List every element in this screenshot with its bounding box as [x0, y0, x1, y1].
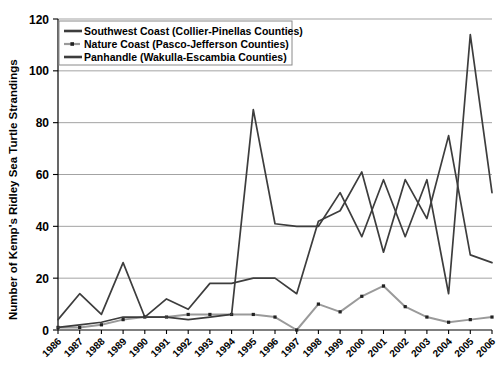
- y-tick-label: 0: [42, 324, 49, 338]
- y-tick-label: 60: [36, 168, 50, 182]
- series-marker: [339, 310, 342, 313]
- series-marker: [122, 318, 125, 321]
- series-marker: [404, 305, 407, 308]
- series-marker: [317, 302, 320, 305]
- chart-container: Number of Kemp's Ridley Sea Turtle Stran…: [0, 0, 504, 378]
- y-axis-title: Number of Kemp's Ridley Sea Turtle Stran…: [7, 59, 19, 320]
- series-marker: [252, 313, 255, 316]
- legend-marker-sample: [70, 42, 74, 46]
- legend-label: Panhandle (Wakulla-Escambia Counties): [84, 51, 287, 63]
- series-marker: [187, 313, 190, 316]
- line-chart: Number of Kemp's Ridley Sea Turtle Stran…: [0, 0, 504, 378]
- series-marker: [447, 321, 450, 324]
- series-marker: [273, 315, 276, 318]
- series-marker: [425, 315, 428, 318]
- series-marker: [78, 326, 81, 329]
- series-marker: [360, 295, 363, 298]
- series-marker: [100, 323, 103, 326]
- series-marker: [469, 318, 472, 321]
- y-tick-label: 20: [36, 272, 50, 286]
- y-tick-label: 40: [36, 220, 50, 234]
- series-marker: [490, 315, 493, 318]
- series-marker: [382, 284, 385, 287]
- legend-label: Nature Coast (Pasco-Jefferson Counties): [84, 38, 289, 50]
- chart-legend: Southwest Coast (Collier-Pinellas Counti…: [59, 21, 303, 65]
- y-tick-label: 80: [36, 116, 50, 130]
- y-tick-label: 100: [29, 64, 49, 78]
- series-marker: [295, 328, 298, 331]
- series-marker: [208, 313, 211, 316]
- legend-label: Southwest Coast (Collier-Pinellas Counti…: [84, 25, 303, 37]
- y-tick-label: 120: [29, 13, 49, 27]
